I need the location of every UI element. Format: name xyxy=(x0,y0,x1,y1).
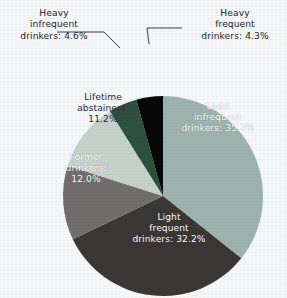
pie-chart-canvas xyxy=(0,0,287,298)
callout-label-heavy-infrequent-drinkers: Heavy infrequent drinkers: 4.6% xyxy=(2,8,106,42)
pie-slices xyxy=(63,96,263,296)
callout-label-heavy-frequent-drinkers: Heavy frequent drinkers: 4.3% xyxy=(186,8,284,42)
pie-chart-figure: Light infrequent drinkers: 35.7% Light f… xyxy=(0,0,287,298)
leader-line-heavy-frequent xyxy=(147,28,182,44)
